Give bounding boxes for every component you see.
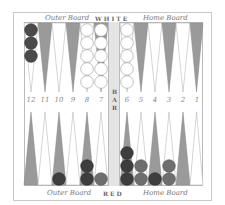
checker-stack-point-5[interactable] <box>135 160 148 186</box>
checker-stack-point-19[interactable] <box>121 24 134 89</box>
bottom-outer-board-label: Outer Board <box>47 189 91 197</box>
checker-stack-point-8[interactable] <box>81 160 94 186</box>
checker-stack-point-18[interactable] <box>95 24 108 89</box>
bottom-home-board-label: Home Board <box>143 189 188 197</box>
checker-stack-point-6[interactable] <box>121 147 134 186</box>
checker-stack-point-4[interactable] <box>149 173 162 186</box>
checkers-layer <box>0 0 225 205</box>
checker-stack-point-17[interactable] <box>81 24 94 89</box>
checker-stack-point-13[interactable] <box>25 24 38 63</box>
checker-stack-point-3[interactable] <box>163 160 176 186</box>
checker-stack-point-10[interactable] <box>53 173 66 186</box>
bottom-player-label: RED <box>103 190 124 198</box>
checker-stack-point-7[interactable] <box>95 173 108 186</box>
